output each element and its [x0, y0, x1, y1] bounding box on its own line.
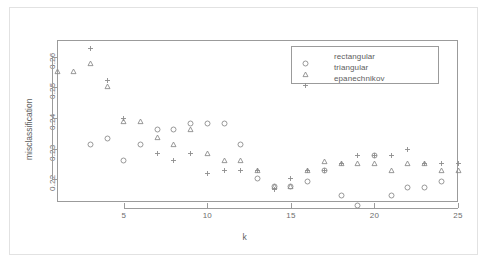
data-point-circle [221, 113, 228, 120]
data-point-circle [388, 185, 395, 192]
legend-item-epanechnikov: epanechnikov [292, 75, 440, 86]
data-point-triangle [154, 127, 161, 134]
x-axis-tick-label: 25 [448, 211, 468, 220]
data-point-triangle [388, 160, 395, 167]
data-point-plus [304, 160, 311, 167]
data-point-triangle [287, 176, 294, 183]
x-axis-tick-label: 10 [197, 211, 217, 220]
x-axis-tick-label: 15 [281, 211, 301, 220]
data-point-circle [304, 171, 311, 178]
chart-canvas: misclassification 0.220.230.240.250.26 k… [0, 0, 489, 266]
data-point-circle [137, 134, 144, 141]
data-point-plus [154, 143, 161, 150]
data-point-triangle [371, 153, 378, 160]
data-point-triangle [354, 153, 361, 160]
data-point-plus [271, 179, 278, 186]
data-point-triangle [304, 160, 311, 167]
data-point-plus [221, 160, 228, 167]
data-point-triangle [137, 111, 144, 118]
triangle-marker-icon [302, 64, 316, 75]
data-point-triangle [120, 111, 127, 118]
data-point-circle [120, 150, 127, 157]
data-point-circle [371, 145, 378, 152]
data-point-triangle [438, 160, 445, 167]
data-point-plus [354, 145, 361, 152]
data-point-plus [104, 70, 111, 77]
data-point-circle [187, 113, 194, 120]
data-point-plus [87, 38, 94, 45]
data-point-circle [287, 176, 294, 183]
data-point-triangle [338, 153, 345, 160]
legend-item-label: rectangular [334, 52, 375, 61]
data-point-plus [388, 145, 395, 152]
data-point-plus [287, 168, 294, 175]
data-point-circle [438, 171, 445, 178]
data-point-circle [254, 168, 261, 175]
data-point-triangle [254, 160, 261, 167]
data-point-circle [237, 134, 244, 141]
x-axis-tick [458, 203, 459, 208]
data-point-circle [338, 185, 345, 192]
data-point-triangle [321, 151, 328, 158]
data-point-triangle [104, 76, 111, 83]
data-point-circle [421, 177, 428, 184]
data-point-plus [204, 163, 211, 170]
data-point-plus [371, 145, 378, 152]
data-point-plus [321, 160, 328, 167]
x-axis-title: k [0, 232, 489, 242]
data-point-circle [204, 113, 211, 120]
x-axis-line [124, 208, 458, 209]
data-point-circle [404, 177, 411, 184]
y-axis-line [52, 57, 53, 179]
legend-item-label: epanechnikov [334, 74, 385, 83]
data-point-circle [271, 176, 278, 183]
data-point-plus [421, 153, 428, 160]
y-axis-title: misclassification [24, 99, 34, 160]
data-point-circle [104, 128, 111, 135]
data-point-triangle [70, 61, 77, 68]
data-point-plus [120, 108, 127, 115]
data-point-plus [404, 139, 411, 146]
x-axis-tick-label: 20 [364, 211, 384, 220]
data-point-plus [187, 143, 194, 150]
data-point-circle [154, 119, 161, 126]
data-point-triangle [271, 176, 278, 183]
data-point-plus [438, 153, 445, 160]
data-point-triangle [237, 150, 244, 157]
data-point-plus [170, 150, 177, 157]
x-axis-tick-label: 5 [114, 211, 134, 220]
data-point-triangle [170, 134, 177, 141]
data-point-circle [170, 119, 177, 126]
data-point-triangle [187, 119, 194, 126]
data-point-circle [321, 160, 328, 167]
data-point-plus [254, 160, 261, 167]
data-point-triangle [204, 143, 211, 150]
data-point-plus [338, 153, 345, 160]
data-point-circle [354, 195, 361, 202]
legend: rectangulartriangularepanechnikov [291, 46, 439, 84]
data-point-circle [87, 134, 94, 141]
data-point-plus [237, 160, 244, 167]
data-point-triangle [87, 53, 94, 60]
plus-marker-icon [302, 75, 316, 86]
circle-marker-icon [302, 53, 316, 64]
legend-item-label: triangular [334, 63, 368, 72]
data-point-triangle [421, 153, 428, 160]
data-point-triangle [221, 150, 228, 157]
data-point-triangle [404, 153, 411, 160]
